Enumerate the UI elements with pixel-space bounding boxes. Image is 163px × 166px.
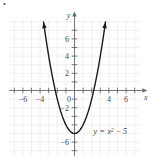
origin-label: 0: [67, 95, 71, 104]
equation-minus: −: [116, 127, 121, 136]
y-axis-label: y: [66, 11, 71, 20]
x-axis-label: x: [143, 93, 148, 102]
x-tick-label: −4: [36, 95, 45, 104]
corner-mark: •: [3, 0, 6, 9]
x-tick-label: −6: [19, 95, 28, 104]
y-tick-label: −2: [60, 104, 69, 113]
equation-lhs: y: [92, 127, 97, 136]
equation-exponent: 2: [111, 127, 114, 133]
y-tick-label: 2: [65, 69, 69, 78]
parabola-graph-figure: −6−446−6−2246 x y 0 y=x2−5 •: [0, 0, 163, 166]
figure-background: [0, 0, 163, 166]
y-tick-label: −6: [60, 138, 69, 147]
y-tick-label: 6: [65, 35, 69, 44]
equation-equals: =: [99, 127, 104, 136]
equation-constant: 5: [123, 127, 127, 136]
y-tick-label: 4: [65, 52, 69, 61]
x-tick-label: 4: [107, 95, 111, 104]
x-tick-label: 6: [124, 95, 128, 104]
